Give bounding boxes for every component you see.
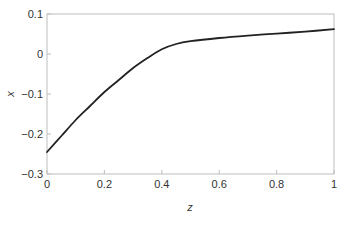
y-axis-label: x bbox=[4, 91, 16, 98]
x-axis-label: z bbox=[186, 201, 193, 213]
x-tick-label: 0.8 bbox=[269, 178, 284, 190]
plot-axes bbox=[47, 14, 334, 174]
line-chart: 0.10−0.1−0.2−0.3 00.20.40.60.81 z x bbox=[0, 0, 339, 225]
x-tick-label: 0.2 bbox=[97, 178, 112, 190]
x-tick-label: 0.4 bbox=[154, 178, 169, 190]
y-tick-label: −0.2 bbox=[21, 128, 43, 140]
x-tick-label: 0.6 bbox=[212, 178, 227, 190]
x-tick-label: 1 bbox=[331, 178, 337, 190]
x-axis-ticks: 00.20.40.60.81 bbox=[44, 170, 337, 190]
data-line bbox=[47, 29, 334, 152]
y-tick-label: −0.3 bbox=[21, 168, 43, 180]
x-tick-label: 0 bbox=[44, 178, 50, 190]
y-tick-label: 0.1 bbox=[28, 8, 43, 20]
plot-frame bbox=[47, 14, 334, 174]
y-tick-label: −0.1 bbox=[21, 88, 43, 100]
y-tick-label: 0 bbox=[37, 48, 43, 60]
